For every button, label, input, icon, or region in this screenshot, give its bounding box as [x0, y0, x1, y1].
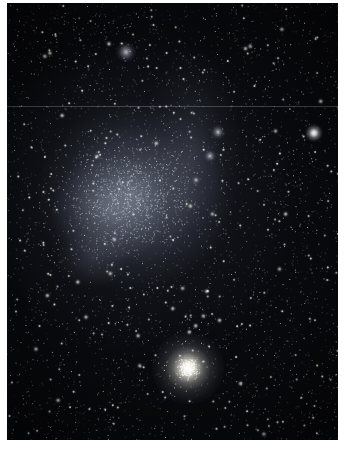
globular-cluster [152, 332, 224, 404]
nebulous-knot-mid-right [204, 150, 216, 162]
bright-foreground-star [305, 124, 323, 142]
image-viewport [0, 0, 345, 452]
photographic-plate [7, 3, 338, 440]
faint-knot-lower-body [192, 176, 200, 184]
paper-margin-bottom [0, 442, 345, 452]
starfield-globular-members [7, 3, 8, 4]
star-association-upper-left [116, 42, 136, 62]
scanline-artifact [7, 106, 338, 107]
nebulous-knot-upper-right [211, 125, 225, 139]
